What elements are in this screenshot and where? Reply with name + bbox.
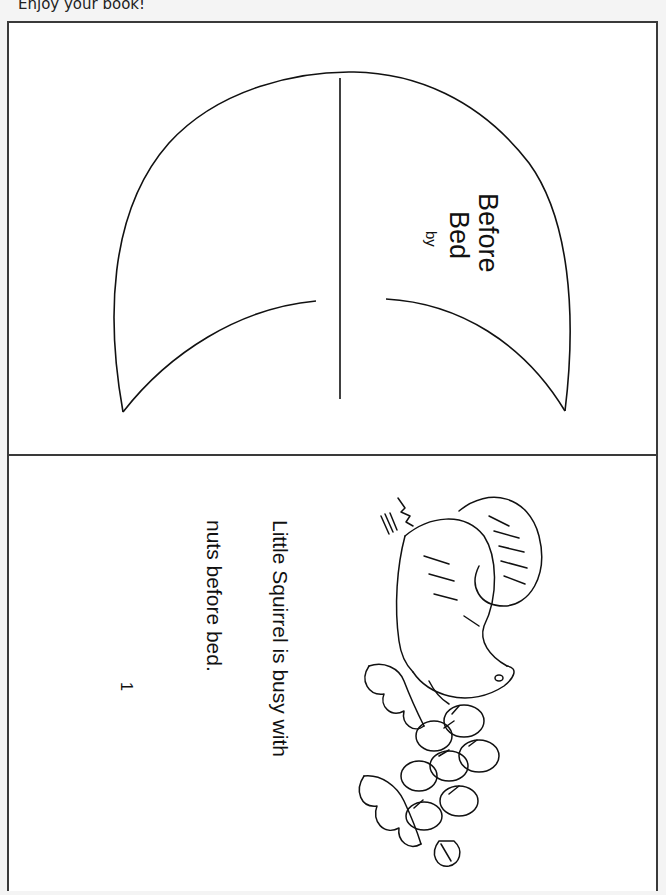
story-text-line2: nuts before bed. xyxy=(202,520,226,672)
page1-panel: Little Squirrel is busy with nuts before… xyxy=(9,456,656,895)
squirrel-illustration-icon xyxy=(9,456,660,895)
page-number: 1 xyxy=(118,682,134,691)
crescent-moon-icon xyxy=(9,23,660,454)
story-text-line1: Little Squirrel is busy with xyxy=(268,520,292,757)
cover-title-line1: Before xyxy=(474,193,502,273)
cover-byline: by xyxy=(423,231,439,247)
cover-panel: Before Bed by xyxy=(9,23,656,454)
cover-title-line2: Bed xyxy=(445,211,473,259)
header-note: Enjoy your book! xyxy=(18,0,145,14)
booklet-sheet: Before Bed by xyxy=(7,21,658,891)
